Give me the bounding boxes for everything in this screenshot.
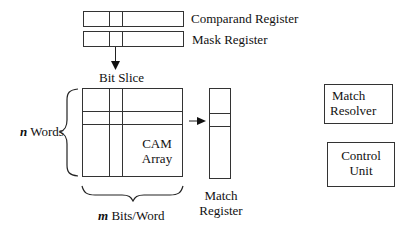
n-words-brace <box>60 89 78 176</box>
connectors-overlay <box>0 0 407 229</box>
bit-slice-down-arrow <box>111 47 120 70</box>
match-right-arrow <box>189 117 206 125</box>
m-bits-brace <box>82 186 183 201</box>
